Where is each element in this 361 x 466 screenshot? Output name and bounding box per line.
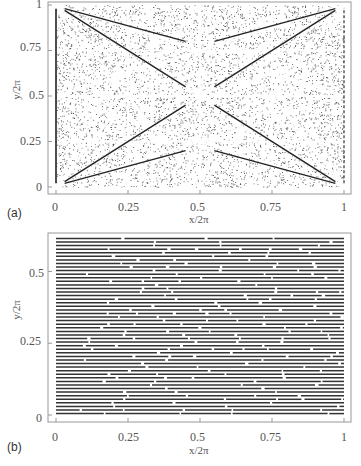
- panel-label-b: (b): [7, 440, 22, 454]
- x-tick-0.5: 0.5: [190, 430, 205, 445]
- x-tick-1: 1: [341, 430, 347, 445]
- x-axis-title-b: x/2π: [189, 444, 209, 456]
- x-tick-0: 0: [52, 430, 58, 445]
- y-tick-0.25: 0.25: [20, 134, 41, 149]
- y-tick-0.5: 0.5: [29, 266, 44, 281]
- plot-area-a: [0, 0, 361, 226]
- y-axis-title-b: y/2π: [10, 300, 22, 320]
- x-axis-title-a: x/2π: [189, 213, 209, 225]
- panel-label-a: (a): [7, 206, 22, 220]
- x-tick-0.25: 0.25: [118, 430, 139, 445]
- y-tick-0: 0: [36, 411, 42, 426]
- x-tick-0: 0: [52, 200, 58, 215]
- x-tick-0.25: 0.25: [118, 200, 139, 215]
- y-tick-0.75: 0.75: [20, 40, 41, 55]
- panel-a: 1 0.75 0.5 0.25 0 0 0.25 0.5 0.75 1 x/2π…: [0, 0, 361, 226]
- y-tick-0.25: 0.25: [20, 334, 41, 349]
- y-tick-0: 0: [36, 180, 42, 195]
- y-tick-0.5: 0.5: [29, 88, 44, 103]
- x-tick-0.75: 0.75: [260, 200, 281, 215]
- y-tick-1: 1: [36, 0, 42, 12]
- panel-b: 0.5 0.25 0 0 0.25 0.5 0.75 1 x/2π y/2π (…: [0, 226, 361, 466]
- y-axis-title-a: y/2π: [10, 80, 22, 100]
- x-tick-0.75: 0.75: [260, 430, 281, 445]
- x-tick-1: 1: [341, 200, 347, 215]
